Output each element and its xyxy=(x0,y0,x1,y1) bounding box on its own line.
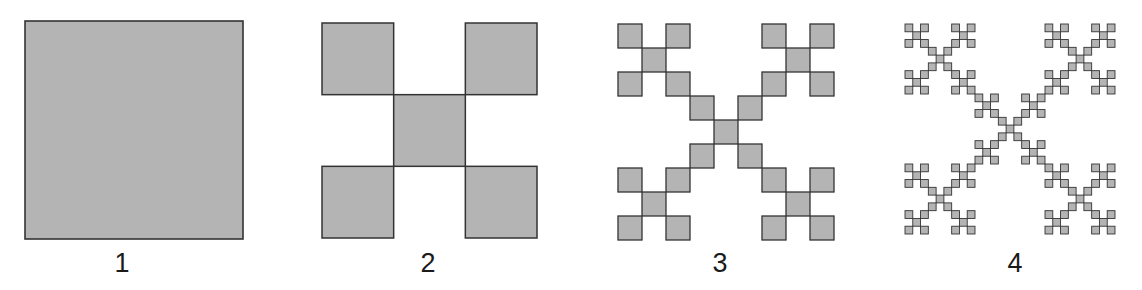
fractal-shape-1 xyxy=(25,21,243,239)
fractal-shape-4 xyxy=(905,24,1115,234)
fractal-shape-2 xyxy=(322,23,537,238)
figure-iteration-4 xyxy=(905,24,1115,234)
fractal-shape-3 xyxy=(618,24,834,240)
figure-label-1: 1 xyxy=(92,250,152,277)
figure-iteration-1 xyxy=(25,21,243,239)
figure-iteration-2 xyxy=(322,23,537,238)
figure-label-4: 4 xyxy=(985,250,1045,277)
figure-label-3: 3 xyxy=(690,250,750,277)
figure-label-2: 2 xyxy=(398,250,458,277)
figure-iteration-3 xyxy=(618,24,834,240)
